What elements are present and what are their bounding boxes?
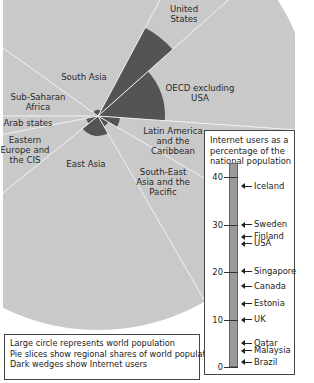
arrow-left-icon (241, 267, 252, 276)
country-marker-canada: Canada (241, 282, 286, 291)
arrow-left-icon (241, 182, 252, 191)
country-name: UK (254, 314, 266, 324)
arrow-left-icon (241, 282, 252, 291)
country-name: Estonia (254, 298, 285, 308)
tick-label-10: 10 (209, 315, 223, 325)
arrow-left-icon (241, 299, 252, 308)
tick-mark (224, 320, 238, 321)
country-marker-sweden: Sweden (241, 220, 287, 229)
label-united-states: UnitedStates (170, 4, 198, 24)
arrow-left-icon (241, 315, 252, 324)
label-east-asia: East Asia (66, 159, 105, 169)
country-marker-usa: USA (241, 239, 271, 248)
label-sub-saharan-africa: Sub-SaharanAfrica (10, 92, 65, 112)
country-name: Iceland (254, 181, 284, 191)
label-latin-america: Latin Americaand theCaribbean (143, 126, 202, 156)
tick-label-0: 0 (209, 362, 223, 372)
country-name: USA (254, 238, 271, 248)
legend-line-slices: Pie slices show regional shares of world… (10, 349, 194, 360)
arrow-left-icon (241, 346, 252, 355)
scale-title: Internet users as a percentage of the na… (210, 135, 291, 167)
country-name: Sweden (254, 219, 287, 229)
tick-mark (224, 177, 238, 178)
country-name: Brazil (254, 357, 277, 367)
country-marker-estonia: Estonia (241, 299, 285, 308)
scale-bar (229, 163, 238, 367)
legend-line-circle: Large circle represents world population (10, 338, 194, 349)
legend-line-wedges: Dark wedges show Internet users (10, 359, 194, 370)
label-arab-states: Arab states (3, 118, 52, 128)
internet-users-scale: Internet users as a percentage of the na… (204, 130, 295, 375)
country-name: Singapore (254, 266, 296, 276)
tick-label-30: 30 (209, 220, 223, 230)
country-marker-iceland: Iceland (241, 182, 284, 191)
label-south-asia: South Asia (61, 72, 107, 82)
country-name: Canada (254, 281, 286, 291)
country-marker-uk: UK (241, 315, 266, 324)
country-marker-malaysia: Malaysia (241, 346, 291, 355)
country-marker-singapore: Singapore (241, 267, 296, 276)
label-oecd-excluding-usa: OECD excludingUSA (166, 83, 235, 103)
country-marker-brazil: Brazil (241, 358, 277, 367)
arrow-left-icon (241, 239, 252, 248)
arrow-left-icon (241, 358, 252, 367)
tick-label-20: 20 (209, 267, 223, 277)
arrow-left-icon (241, 220, 252, 229)
legend-box: Large circle represents world population… (4, 334, 200, 380)
label-eastern-europe-cis: EasternEurope andthe CIS (0, 135, 49, 165)
label-south-east-asia-pacific: South-EastAsia and thePacific (136, 167, 190, 197)
tick-mark (224, 225, 238, 226)
tick-label-40: 40 (209, 172, 223, 182)
tick-mark (224, 272, 238, 273)
country-name: Malaysia (254, 345, 291, 355)
tick-mark (224, 367, 238, 368)
